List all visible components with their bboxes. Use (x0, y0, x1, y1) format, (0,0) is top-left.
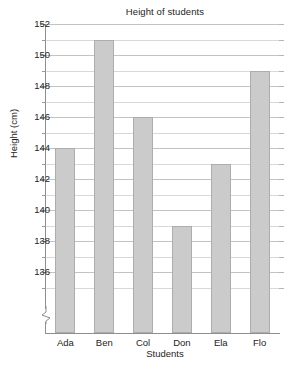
y-tick-minor (42, 102, 46, 103)
gridline-minor (46, 257, 279, 258)
bar-col[interactable] (133, 117, 153, 333)
y-tick-minor (42, 257, 46, 258)
y-tick-right (279, 71, 284, 72)
y-tick-right (279, 226, 284, 227)
gridline-minor (46, 195, 279, 196)
axis-break-icon (40, 305, 52, 325)
y-tick-minor (42, 133, 46, 134)
y-tick-right (279, 210, 284, 211)
y-tick-label: 148 (16, 81, 50, 91)
y-tick-minor (42, 195, 46, 196)
plot-area (46, 24, 279, 318)
y-tick-right (279, 24, 284, 25)
gridline-major (46, 55, 279, 56)
bar-chart: Height of students Height (cm) Students … (0, 0, 288, 367)
gridline-major (46, 86, 279, 87)
bar-ada[interactable] (55, 148, 75, 333)
y-tick-right (279, 86, 284, 87)
x-axis-line (45, 333, 280, 334)
y-tick-right (279, 117, 284, 118)
chart-title: Height of students (46, 6, 284, 17)
y-tick-label: 146 (16, 112, 50, 122)
gridline-minor (46, 71, 279, 72)
gridline-major (46, 241, 279, 242)
y-tick-minor (42, 40, 46, 41)
gridline-minor (46, 102, 279, 103)
gridline-major (46, 210, 279, 211)
gridline-major (46, 179, 279, 180)
gridline-major (46, 148, 279, 149)
y-tick-label: 136 (16, 267, 50, 277)
gridline-minor (46, 288, 279, 289)
y-tick-right (279, 288, 284, 289)
gridline-minor (46, 133, 279, 134)
y-axis-label: Height (cm) (8, 91, 19, 177)
gridline-major (46, 24, 279, 25)
bar-ben[interactable] (94, 40, 114, 334)
y-tick-right (279, 195, 284, 196)
gridline-minor (46, 164, 279, 165)
x-axis-label: Students (46, 348, 284, 359)
y-tick-label: 150 (16, 50, 50, 60)
gridline-major (46, 117, 279, 118)
y-tick-right (279, 40, 284, 41)
gridline-minor (46, 226, 279, 227)
y-tick-minor (42, 288, 46, 289)
bar-flo[interactable] (250, 71, 270, 334)
y-tick-right (279, 55, 284, 56)
y-tick-label: 152 (16, 19, 50, 29)
y-tick-minor (42, 71, 46, 72)
y-tick-right (279, 164, 284, 165)
y-tick-right (279, 257, 284, 258)
y-tick-label: 140 (16, 205, 50, 215)
y-tick-right (279, 133, 284, 134)
y-tick-label: 142 (16, 174, 50, 184)
bar-ela[interactable] (211, 164, 231, 334)
y-tick-right (279, 272, 284, 273)
y-tick-minor (42, 226, 46, 227)
y-tick-right (279, 102, 284, 103)
gridline-minor (46, 40, 279, 41)
y-tick-label: 138 (16, 236, 50, 246)
y-tick-right (279, 179, 284, 180)
gridline-major (46, 272, 279, 273)
y-tick-right (279, 241, 284, 242)
y-tick-right (279, 148, 284, 149)
y-tick-minor (42, 164, 46, 165)
y-tick-label: 144 (16, 143, 50, 153)
x-tick-label-flo: Flo (237, 337, 283, 348)
bar-don[interactable] (172, 226, 192, 334)
